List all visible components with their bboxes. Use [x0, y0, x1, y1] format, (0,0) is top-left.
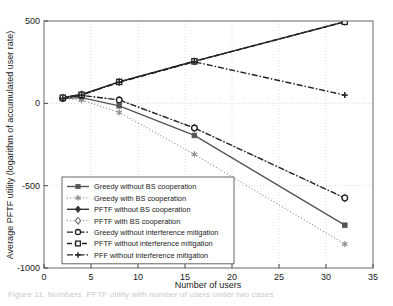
svg-text:500: 500: [25, 16, 40, 26]
svg-text:25: 25: [274, 272, 284, 282]
figure-container: 05101520253035-1000-5000500 Number of us…: [0, 0, 393, 306]
x-axis-title: Number of users: [175, 280, 242, 290]
svg-text:-1000: -1000: [17, 263, 40, 273]
legend-label: PFTF with BS cooperation: [94, 217, 180, 226]
chart-canvas: 05101520253035-1000-5000500 Number of us…: [0, 0, 393, 306]
svg-text:35: 35: [368, 272, 378, 282]
chart-legend: Greedy without BS cooperationGreedy with…: [62, 177, 234, 264]
svg-text:30: 30: [321, 272, 331, 282]
legend-label: Greedy without interference mitigation: [94, 228, 218, 237]
legend-label: PFTF without BS cooperation: [94, 205, 191, 214]
figure-caption: Figure 11. Numbers. PFTF utility with nu…: [8, 290, 388, 299]
legend-label: PFTF without interference mitigation: [94, 239, 213, 248]
svg-text:0: 0: [35, 98, 40, 108]
svg-text:10: 10: [133, 272, 143, 282]
legend-label: Greedy without BS cooperation: [94, 182, 196, 191]
legend-label: PFF without interference mitigation: [94, 251, 208, 260]
svg-text:0: 0: [41, 272, 46, 282]
legend-label: Greedy with BS cooperation: [94, 194, 186, 203]
svg-text:-500: -500: [22, 181, 40, 191]
svg-text:5: 5: [88, 272, 93, 282]
y-axis-title: Average PFTF utility (logarithm of accum…: [5, 31, 15, 259]
